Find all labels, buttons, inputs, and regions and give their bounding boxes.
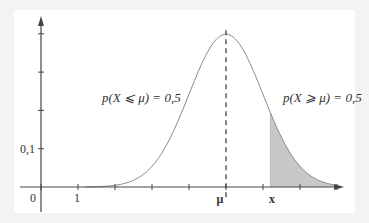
origin-label: 0 [30, 191, 36, 205]
y-tick-label-0-1: 0,1 [20, 142, 35, 156]
y-axis-arrow-icon [38, 16, 44, 26]
right-probability-label: p(X ⩾ μ) = 0,5 [282, 90, 362, 105]
x-value-label: x [269, 192, 275, 206]
x-axis-arrow-icon [334, 184, 344, 190]
mu-label: μ [217, 192, 224, 206]
density-curve [85, 34, 337, 187]
normal-distribution-chart: p(X ⩽ μ) = 0,5 p(X ⩾ μ) = 0,5 0 1 0,1 μ … [0, 0, 369, 223]
x-tick-label-1: 1 [74, 191, 80, 205]
shaded-tail-area [270, 113, 337, 187]
left-probability-label: p(X ⩽ μ) = 0,5 [101, 90, 181, 105]
